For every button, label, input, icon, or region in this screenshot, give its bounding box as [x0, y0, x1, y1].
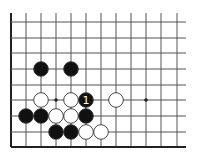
black-stone-icon — [34, 62, 49, 77]
white-stone-icon — [79, 125, 94, 140]
go-board: 1 — [0, 0, 197, 161]
black-stone — [64, 125, 79, 140]
black-stone-icon — [64, 125, 79, 140]
black-stone: 1 — [79, 93, 94, 108]
white-stone — [49, 109, 64, 124]
black-stone — [49, 125, 64, 140]
black-stone-icon — [79, 109, 94, 124]
black-stone-icon — [49, 125, 64, 140]
white-stone — [64, 93, 79, 108]
white-stone — [94, 125, 109, 140]
white-stone — [64, 109, 79, 124]
move-number-label: 1 — [83, 94, 90, 107]
white-stone-icon — [34, 93, 49, 108]
white-stone — [109, 93, 124, 108]
black-stone-icon — [64, 62, 79, 77]
white-stone-icon — [64, 93, 79, 108]
black-stone-icon — [34, 109, 49, 124]
black-stone — [19, 109, 34, 124]
white-stone-icon — [64, 109, 79, 124]
white-stone-icon — [94, 125, 109, 140]
black-stone — [79, 109, 94, 124]
black-stone — [34, 109, 49, 124]
white-stone — [34, 93, 49, 108]
white-stone — [79, 125, 94, 140]
black-stone — [34, 62, 49, 77]
white-stone-icon — [49, 109, 64, 124]
black-stone-icon — [19, 109, 34, 124]
star-point-icon — [144, 98, 148, 102]
black-stone — [64, 62, 79, 77]
star-point-icon — [54, 98, 58, 102]
white-stone-icon — [109, 93, 124, 108]
